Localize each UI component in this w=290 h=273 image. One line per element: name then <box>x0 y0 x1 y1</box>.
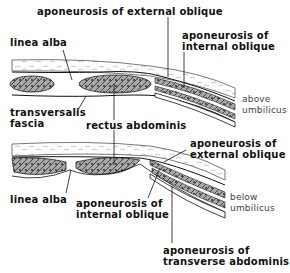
rectus-right-below <box>76 157 140 174</box>
label-int-oblique-below-1: aponeurosis of <box>76 198 162 209</box>
region-label-above-2: umbilicus <box>242 105 287 116</box>
region-label-above-1: above <box>242 94 271 105</box>
label-ext-oblique-below-2: external oblique <box>190 149 286 160</box>
rectus-left-above <box>10 76 54 92</box>
label-transversalis-1: transversalis <box>10 107 86 118</box>
label-transverse-below-2: transverse abdominis <box>163 256 289 267</box>
label-transversalis-2: fascia <box>10 118 44 129</box>
label-int-oblique-above-2: internal oblique <box>182 41 275 52</box>
rectus-right-above <box>79 75 151 93</box>
rectus-sheath-diagram: aponeurosis of external oblique aponeuro… <box>0 0 290 273</box>
label-linea-alba-above: linea alba <box>10 37 67 48</box>
label-rectus-abdominis: rectus abdominis <box>86 120 186 131</box>
label-linea-alba-below: linea alba <box>10 194 67 205</box>
label-ext-oblique-above: aponeurosis of external oblique <box>37 6 223 17</box>
label-int-oblique-below-2: internal oblique <box>76 209 169 220</box>
region-label-below-2: umbilicus <box>230 203 275 214</box>
label-transverse-below-1: aponeurosis of <box>163 245 249 256</box>
region-label-below-1: below <box>230 192 258 203</box>
label-int-oblique-above-1: aponeurosis of <box>182 30 268 41</box>
leader-linea-alba-below <box>66 170 71 193</box>
label-ext-oblique-below-1: aponeurosis of <box>190 138 276 149</box>
rectus-left-below <box>12 158 66 175</box>
